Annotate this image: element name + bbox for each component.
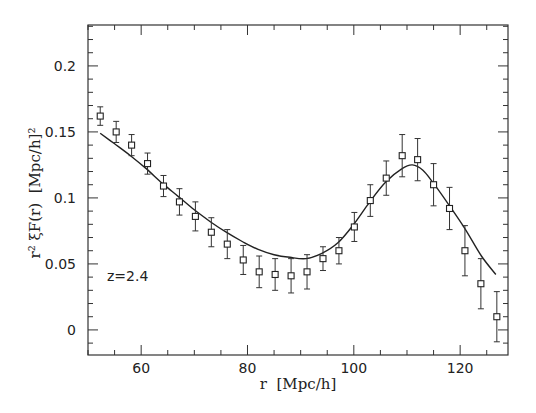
data-point	[478, 259, 484, 309]
axis-ticks	[88, 25, 508, 355]
square-marker	[288, 273, 294, 279]
data-point	[320, 247, 326, 271]
y-axis-title: r² ξF(r) [Mpc/h]²	[26, 128, 44, 259]
data-point	[272, 259, 278, 291]
x-axis-title: r [Mpc/h]	[260, 375, 337, 393]
data-point	[129, 135, 135, 156]
square-marker	[351, 224, 357, 230]
y-tick-label: 0.2	[54, 58, 76, 74]
x-tick-label: 100	[340, 360, 367, 376]
data-point	[494, 292, 500, 342]
square-marker	[256, 269, 262, 275]
data-point	[447, 187, 453, 229]
model-curve	[100, 133, 496, 274]
data-point	[113, 121, 119, 142]
data-point	[240, 245, 246, 274]
square-marker	[494, 314, 500, 320]
square-marker	[447, 205, 453, 211]
y-tick-label: 0.1	[54, 190, 76, 206]
square-marker	[224, 241, 230, 247]
square-marker	[399, 153, 405, 159]
x-tick-label: 80	[239, 360, 257, 376]
square-marker	[240, 257, 246, 263]
data-point	[336, 238, 342, 264]
data-point	[367, 185, 373, 217]
square-marker	[208, 229, 214, 235]
square-marker	[320, 256, 326, 262]
square-marker	[478, 281, 484, 287]
y-tick-label: 0.05	[45, 256, 76, 272]
y-tick-label: 0	[67, 322, 76, 338]
data-point	[208, 218, 214, 247]
square-marker	[367, 198, 373, 204]
data-point	[192, 202, 198, 231]
square-marker	[336, 248, 342, 254]
data-point	[415, 139, 421, 181]
square-marker	[431, 182, 437, 188]
square-marker	[176, 199, 182, 205]
square-marker	[462, 248, 468, 254]
data-point	[256, 256, 262, 288]
square-marker	[415, 157, 421, 163]
data-point	[97, 107, 103, 125]
x-tick-label: 120	[447, 360, 474, 376]
square-marker	[304, 269, 310, 275]
data-point	[383, 161, 389, 195]
square-marker	[113, 129, 119, 135]
square-marker	[383, 175, 389, 181]
square-marker	[272, 271, 278, 277]
data-points	[97, 107, 500, 342]
data-point	[304, 255, 310, 289]
square-marker	[160, 183, 166, 189]
redshift-annotation: z=2.4	[107, 268, 148, 284]
data-point	[431, 164, 437, 206]
square-marker	[145, 161, 151, 167]
correlation-function-chart: 6080100120 00.050.10.150.2 z=2.4 r [Mpc/…	[0, 0, 536, 413]
x-tick-labels: 6080100120	[132, 360, 473, 376]
x-tick-label: 60	[132, 360, 150, 376]
data-point	[176, 189, 182, 215]
y-tick-label: 0.15	[45, 124, 76, 140]
square-marker	[129, 142, 135, 148]
data-point	[288, 259, 294, 293]
square-marker	[192, 213, 198, 219]
data-point	[351, 212, 357, 241]
square-marker	[97, 113, 103, 119]
y-tick-labels: 00.050.10.150.2	[45, 58, 76, 338]
plot-frame	[88, 25, 508, 355]
data-point	[160, 175, 166, 196]
